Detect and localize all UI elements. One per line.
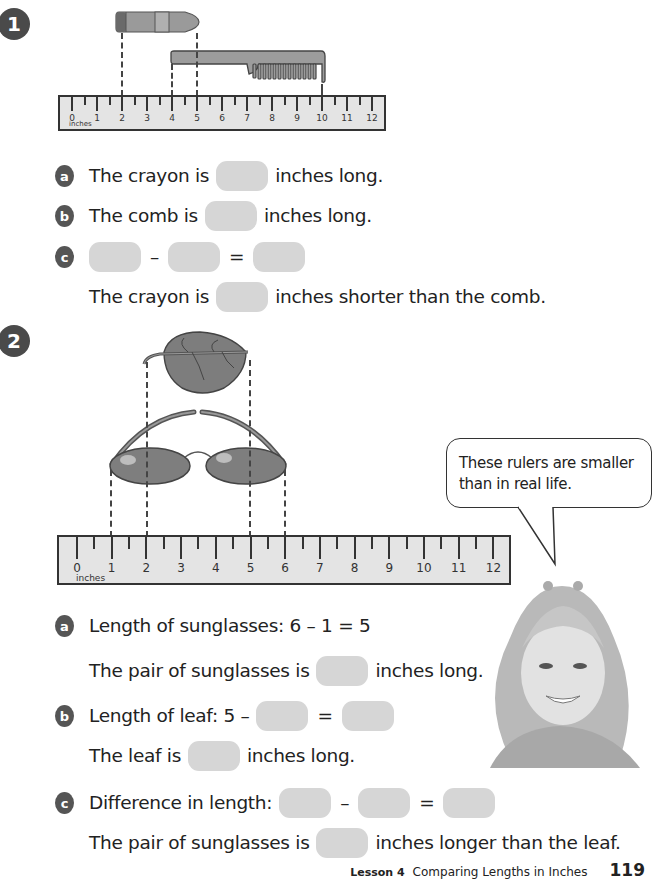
text: inches longer than the leaf. xyxy=(375,827,620,859)
text: The pair of sunglasses is xyxy=(89,827,309,859)
answer-box-2a[interactable] xyxy=(316,656,368,686)
text: inches long. xyxy=(247,740,355,772)
guide-leaf-start xyxy=(146,362,148,537)
part-b-badge: b xyxy=(55,205,74,227)
part-c-badge: c xyxy=(55,246,74,268)
answer-box-1a[interactable] xyxy=(216,161,268,191)
ruler-tick-minor xyxy=(359,97,361,105)
guide-leaf-end xyxy=(249,360,251,537)
ruler-tick-label: 0 xyxy=(69,113,75,123)
ruler-tick-label: 12 xyxy=(366,113,377,123)
comb-illustration xyxy=(169,50,329,85)
ruler-tick-minor xyxy=(209,97,211,105)
answer-box-1c-subtrahend[interactable] xyxy=(168,242,220,272)
answer-box-1c-minuend[interactable] xyxy=(89,242,141,272)
part-a-badge: a xyxy=(55,165,74,187)
ruler-tick-minor xyxy=(84,97,86,105)
ruler-tick-major xyxy=(171,97,173,111)
ruler-tick-major xyxy=(284,537,286,559)
ruler-tick-minor xyxy=(232,537,234,549)
ruler-tick-major xyxy=(146,97,148,111)
ruler-tick-label: 10 xyxy=(416,561,431,575)
answer-box-2b-difference[interactable] xyxy=(342,701,394,731)
ruler-tick-major xyxy=(458,537,460,559)
text: The pair of sunglasses is xyxy=(89,655,309,687)
ruler-tick-major xyxy=(423,537,425,559)
ruler-tick-minor xyxy=(267,537,269,549)
ruler-tick-minor xyxy=(197,537,199,549)
text: The crayon is xyxy=(89,160,209,192)
ruler-tick-label: 10 xyxy=(316,113,327,123)
ruler-tick-label: 3 xyxy=(177,561,185,575)
ruler-tick-label: 9 xyxy=(385,561,393,575)
ruler-tick-minor xyxy=(259,97,261,105)
ruler-tick-major xyxy=(371,97,373,111)
lesson-title: Comparing Lengths in Inches xyxy=(413,865,588,879)
ruler-tick-minor xyxy=(440,537,442,549)
problem-2c-equation: Difference in length: – = xyxy=(89,787,502,819)
text: Difference in length: xyxy=(89,787,272,819)
ruler-tick-major xyxy=(354,537,356,559)
ruler-tick-minor xyxy=(336,537,338,549)
text: The crayon is xyxy=(89,281,209,313)
ruler-tick-minor xyxy=(302,537,304,549)
ruler-tick-label: 2 xyxy=(143,561,151,575)
problem-2c-sentence: The pair of sunglasses is inches longer … xyxy=(89,827,621,859)
answer-box-2c-difference[interactable] xyxy=(443,788,495,818)
ruler-tick-major xyxy=(145,537,147,559)
ruler-tick-minor xyxy=(128,537,130,549)
ruler-tick-label: 12 xyxy=(486,561,501,575)
minus-sign: – xyxy=(340,787,349,819)
ruler-tick-major xyxy=(76,537,78,559)
ruler-tick-major xyxy=(321,97,323,111)
answer-box-1b[interactable] xyxy=(205,201,257,231)
ruler-tick-label: 1 xyxy=(108,561,116,575)
ruler-tick-minor xyxy=(159,97,161,105)
answer-box-2b-subtrahend[interactable] xyxy=(256,701,308,731)
ruler-tick-major xyxy=(246,97,248,111)
ruler-tick-minor xyxy=(163,537,165,549)
ruler-tick-label: 5 xyxy=(247,561,255,575)
ruler-tick-minor xyxy=(134,97,136,105)
leaf-illustration xyxy=(142,330,254,400)
crayon-illustration xyxy=(115,10,200,35)
ruler-tick-label: 11 xyxy=(451,561,466,575)
answer-box-2c-minuend[interactable] xyxy=(279,788,331,818)
girl-photo xyxy=(470,578,650,768)
ruler-tick-major xyxy=(388,537,390,559)
page-number: 119 xyxy=(610,860,646,880)
ruler-tick-minor xyxy=(109,97,111,105)
answer-box-1c-sentence[interactable] xyxy=(216,282,268,312)
answer-box-2b-sentence[interactable] xyxy=(188,741,240,771)
ruler-tick-label: 3 xyxy=(144,113,150,123)
ruler-tick-major xyxy=(271,97,273,111)
guide-crayon-start xyxy=(121,33,123,96)
equals-sign: = xyxy=(229,241,244,273)
problem-2a-equation: Length of sunglasses: 6 – 1 = 5 xyxy=(89,610,370,642)
ruler-tick-label: 11 xyxy=(341,113,352,123)
ruler-2: inches 0123456789101112 xyxy=(57,535,511,585)
guide-comb-start xyxy=(171,64,173,96)
page-footer: Lesson 4 Comparing Lengths in Inches 119 xyxy=(350,860,645,880)
sunglasses-illustration xyxy=(106,408,290,488)
problem-2b-sentence: The leaf is inches long. xyxy=(89,740,355,772)
ruler-tick-label: 6 xyxy=(219,113,225,123)
answer-box-1c-difference[interactable] xyxy=(253,242,305,272)
text: inches long. xyxy=(375,655,483,687)
ruler-tick-label: 1 xyxy=(94,113,100,123)
bubble-line-1: These rulers are smaller xyxy=(459,453,639,474)
ruler-tick-minor xyxy=(475,537,477,549)
guide-crayon-end xyxy=(196,33,198,96)
answer-box-2c-subtrahend[interactable] xyxy=(358,788,410,818)
minus-sign: – xyxy=(150,241,159,273)
ruler-tick-minor xyxy=(406,537,408,549)
ruler-tick-label: 8 xyxy=(269,113,275,123)
guide-sunglasses-start xyxy=(110,470,112,537)
speech-bubble-tail xyxy=(515,506,560,568)
problem-2a-sentence: The pair of sunglasses is inches long. xyxy=(89,655,483,687)
answer-box-2c-sentence[interactable] xyxy=(316,828,368,858)
ruler-tick-label: 0 xyxy=(73,561,81,575)
speech-bubble: These rulers are smaller than in real li… xyxy=(446,438,652,508)
problem-2-badge: 2 xyxy=(0,325,30,357)
ruler-tick-minor xyxy=(309,97,311,105)
